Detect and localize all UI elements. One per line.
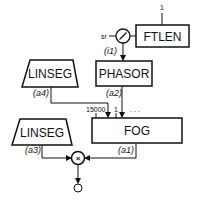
linseg-top-label: LINSEG (28, 67, 72, 81)
sr-label: sr (101, 33, 108, 40)
fog-label: FOG (124, 124, 150, 138)
a1-label: (a1) (118, 145, 134, 155)
ftlen-node: FTLEN 1 (136, 4, 189, 47)
i1-label: (i1) (104, 46, 117, 56)
a2-label: (a2) (106, 88, 122, 98)
fog-input-2: 1 (114, 106, 118, 113)
divider-node: sr (i1) (101, 29, 136, 60)
a4-label: (a4) (33, 88, 49, 98)
fog-node: 15000 1 . . . FOG (a1) (85, 106, 182, 158)
output-terminal-icon (74, 184, 82, 192)
phasor-label: PHASOR (99, 67, 150, 81)
ftlen-label: FTLEN (143, 30, 181, 44)
fog-input-more: . . . (130, 106, 140, 113)
multiplier-node: × (72, 152, 85, 193)
svg-text:×: × (76, 154, 81, 163)
ftlen-input-value: 1 (160, 4, 164, 11)
linseg-bottom-label: LINSEG (20, 126, 64, 140)
linseg-bottom-node: LINSEG (a3) (12, 119, 72, 158)
fog-input-1: 15000 (86, 106, 106, 113)
a3-label: (a3) (25, 145, 41, 155)
signal-flow-diagram: FTLEN 1 sr (i1) PHASOR (a2) LINSEG (a4) … (0, 0, 197, 204)
